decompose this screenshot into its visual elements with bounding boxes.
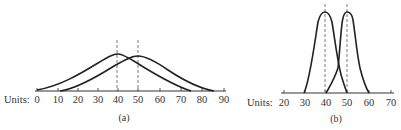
panel-b-tick-label: 40 (321, 97, 332, 108)
panel-b-tick-label: 50 (342, 97, 353, 108)
panel-a-curve-1 (37, 54, 191, 91)
panel-a-tick-label: 10 (53, 94, 64, 105)
panel-b: Units: 20 30 40 50 60 70 (b) (247, 4, 396, 125)
panel-a-tick-label: 60 (155, 94, 166, 105)
panel-a-curve-2 (60, 56, 214, 91)
panel-b-tick-label: 60 (364, 97, 375, 108)
panel-b-tick-label: 70 (386, 97, 397, 108)
panel-a-caption: (a) (118, 112, 129, 124)
panel-a: Units: 0 10 20 30 40 50 60 70 80 90 (a) (4, 40, 229, 124)
panel-a-tick-label: 30 (93, 94, 104, 105)
panel-b-curve-1 (304, 12, 347, 93)
panel-a-units-label: Units: (4, 94, 30, 105)
panel-a-tick-label: 20 (73, 94, 84, 105)
panel-a-tick-label: 50 (133, 94, 144, 105)
panel-a-tick-label: 90 (219, 94, 230, 105)
figure: Units: 0 10 20 30 40 50 60 70 80 90 (a) … (0, 0, 401, 130)
panel-b-units-label: Units: (247, 97, 273, 108)
panel-a-tick-label: 80 (197, 94, 208, 105)
panel-a-tick-label: 0 (34, 94, 39, 105)
panel-b-caption: (b) (330, 113, 342, 125)
panel-a-tick-label: 70 (176, 94, 187, 105)
panel-b-tick-label: 20 (279, 97, 290, 108)
panel-b-tick-label: 30 (300, 97, 311, 108)
panel-a-tick-label: 40 (113, 94, 124, 105)
